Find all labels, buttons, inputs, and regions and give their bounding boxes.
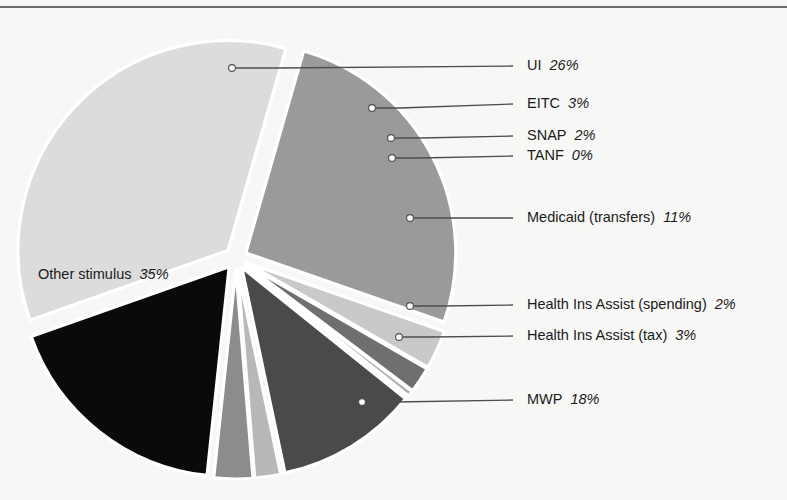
slice-callout-label: Medicaid (transfers) 11% [527,209,691,225]
pie-chart-svg: UI 26%EITC 3%SNAP 2%TANF 0%Medicaid (tra… [0,0,787,500]
slice-callout-label: Health Ins Assist (tax) 3% [527,327,696,343]
leader-dot-marker [407,215,414,222]
slice-label-name: Medicaid (transfers) [527,209,655,225]
slice-label-name: EITC [527,95,560,111]
slice-callout-label: SNAP 2% [527,127,596,143]
slice-label-percent: 0% [564,147,593,163]
slice-label-name: UI [527,57,542,73]
slice-callout-label: Health Ins Assist (spending) 2% [527,296,736,312]
slice-label-percent: 3% [560,95,589,111]
slice-label-percent: 11% [655,209,691,225]
pie-chart-figure: UI 26%EITC 3%SNAP 2%TANF 0%Medicaid (tra… [0,0,787,500]
leader-dot-marker [388,135,395,142]
top-divider-rule [0,6,787,8]
slice-label-name: TANF [527,147,564,163]
slice-callout-label: UI 26% [527,57,579,73]
slice-label-percent: 35% [131,266,168,282]
slice-inside-label: Other stimulus 35% [38,266,169,282]
slice-label-percent: 26% [542,57,579,73]
slice-callout-label: TANF 0% [527,147,593,163]
leader-dot-marker [369,105,376,112]
slice-callout-label: EITC 3% [527,95,589,111]
slice-label-name: Other stimulus [38,266,131,282]
leader-dot-marker [389,155,396,162]
leader-dot-marker [359,399,366,406]
slice-label-percent: 2% [707,296,736,312]
slice-label-name: Health Ins Assist (spending) [527,296,707,312]
slice-label-name: Health Ins Assist (tax) [527,327,667,343]
slice-label-name: SNAP [527,127,567,143]
slice-label-name: MWP [527,391,562,407]
slice-label-percent: 18% [562,391,599,407]
leader-dot-marker [229,65,236,72]
slice-label-percent: 3% [667,327,696,343]
slice-callout-label: MWP 18% [527,391,600,407]
leader-dot-marker [407,303,414,310]
pie-slices-group [18,40,456,479]
leader-dot-marker [396,334,403,341]
slice-label-percent: 2% [567,127,596,143]
